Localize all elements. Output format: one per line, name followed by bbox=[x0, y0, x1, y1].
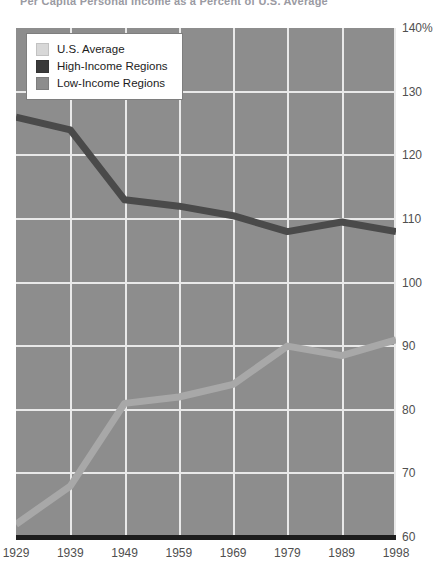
legend-label: U.S. Average bbox=[57, 43, 125, 56]
y-tick-label-90: 90 bbox=[402, 340, 415, 352]
y-tick-label-110: 110 bbox=[402, 213, 421, 225]
legend-swatch-icon bbox=[36, 60, 49, 73]
series-line-low-income-regions bbox=[16, 340, 396, 525]
x-tick-label-1939: 1939 bbox=[57, 546, 84, 560]
x-axis-labels: 19291939194919591969197919891998 bbox=[0, 546, 448, 566]
x-tick-label-1949: 1949 bbox=[111, 546, 138, 560]
x-tick-label-1969: 1969 bbox=[220, 546, 247, 560]
chart-title-text: Per Capita Personal Income as a Percent … bbox=[10, 0, 328, 8]
series-line-high-income-regions bbox=[16, 117, 396, 232]
y-tick-label-120: 120 bbox=[402, 149, 422, 161]
x-tick-label-1929: 1929 bbox=[3, 546, 30, 560]
chart-title: Per Capita Personal Income as a Percent … bbox=[0, 0, 448, 13]
x-tick-label-1959: 1959 bbox=[165, 546, 192, 560]
y-tick-label-130: 130 bbox=[402, 86, 422, 98]
y-axis-labels: 140%13012011010090807060 bbox=[402, 0, 448, 574]
chart-legend: U.S. AverageHigh-Income RegionsLow-Incom… bbox=[26, 33, 183, 100]
x-axis-rule bbox=[16, 535, 396, 540]
plot-area bbox=[16, 28, 396, 537]
legend-item-high-income-regions: High-Income Regions bbox=[36, 58, 168, 75]
y-tick-label-100: 100 bbox=[402, 277, 422, 289]
legend-swatch-icon bbox=[36, 43, 49, 56]
legend-item-u-s-average: U.S. Average bbox=[36, 41, 168, 58]
x-tick-label-1989: 1989 bbox=[328, 546, 355, 560]
y-tick-label-140: 140% bbox=[402, 22, 433, 34]
y-tick-label-60: 60 bbox=[402, 531, 415, 543]
y-tick-label-80: 80 bbox=[402, 404, 415, 416]
series-lines bbox=[16, 28, 396, 537]
legend-label: High-Income Regions bbox=[57, 60, 168, 73]
legend-item-low-income-regions: Low-Income Regions bbox=[36, 75, 168, 92]
chart-figure: Per Capita Personal Income as a Percent … bbox=[0, 0, 448, 574]
y-tick-label-70: 70 bbox=[402, 467, 415, 479]
x-tick-label-1979: 1979 bbox=[274, 546, 301, 560]
legend-label: Low-Income Regions bbox=[57, 77, 165, 90]
legend-swatch-icon bbox=[36, 77, 49, 90]
x-tick-label-1998: 1998 bbox=[383, 546, 410, 560]
